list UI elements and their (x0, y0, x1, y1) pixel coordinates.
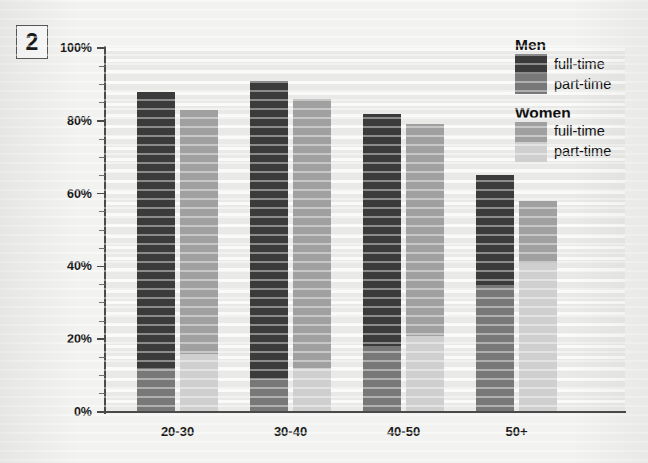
x-axis-line (104, 411, 626, 413)
bar-men-50+ (476, 175, 514, 412)
figure-number: 2 (26, 31, 39, 54)
y-tick-major (97, 338, 105, 340)
bar-men-20-30 (137, 92, 175, 412)
x-axis-tick-label: 40-50 (364, 424, 444, 439)
bar-men-30-40 (250, 81, 288, 412)
legend-item[interactable]: part-time (505, 142, 611, 162)
legend-item-label: part-time (554, 144, 611, 159)
chart-legend: Menfull-timepart-timeWomenfull-timepart-… (505, 36, 611, 162)
figure-number-box: 2 (16, 25, 48, 59)
bar-segment-men-full-time (137, 92, 175, 369)
y-axis-labels: 100%80%60%40%20%0% (30, 0, 92, 463)
y-tick-minor (99, 84, 105, 85)
bar-women-50+ (519, 201, 557, 412)
y-tick-minor (99, 175, 105, 176)
y-tick-minor (99, 157, 105, 158)
y-tick-minor (99, 66, 105, 67)
legend-group-title-men: Men (515, 36, 611, 54)
y-axis-tick-label: 60% (36, 188, 92, 201)
figure-page: 100%80%60%40%20%0% 20-3030-4040-5050+ 2 … (0, 0, 648, 463)
y-tick-minor (99, 393, 105, 394)
y-tick-minor (99, 375, 105, 376)
bar-men-40-50 (363, 114, 401, 412)
bar-segment-men-full-time (250, 81, 288, 379)
y-tick-major (97, 411, 105, 413)
bar-women-30-40 (293, 99, 331, 412)
y-tick-major (97, 120, 105, 122)
x-axis-tick-label: 50+ (477, 424, 557, 439)
bar-segment-men-part-time (137, 368, 175, 412)
bar-segment-women-part-time (180, 354, 218, 412)
y-axis-tick-label: 40% (36, 260, 92, 273)
bar-segment-men-full-time (363, 114, 401, 347)
legend-swatch-icon (515, 122, 547, 142)
bar-segment-women-full-time (519, 201, 557, 263)
bar-segment-men-part-time (476, 285, 514, 412)
y-tick-major (97, 47, 105, 49)
bar-women-40-50 (406, 124, 444, 412)
bar-segment-women-part-time (293, 368, 331, 412)
legend-item[interactable]: full-time (505, 54, 611, 74)
y-axis-tick-label: 80% (36, 115, 92, 128)
y-tick-minor (99, 211, 105, 212)
y-tick-minor (99, 321, 105, 322)
bar-segment-women-part-time (406, 336, 444, 412)
legend-item-label: part-time (554, 77, 611, 92)
legend-rows-women: full-timepart-time (505, 122, 611, 162)
legend-group-title-women: Women (515, 104, 611, 122)
bar-women-20-30 (180, 110, 218, 412)
bar-segment-women-part-time (519, 263, 557, 412)
x-axis-tick-label: 30-40 (251, 424, 331, 439)
y-axis-tick-label: 20% (36, 333, 92, 346)
y-tick-minor (99, 230, 105, 231)
legend-swatch-icon (515, 74, 547, 94)
y-tick-minor (99, 102, 105, 103)
y-tick-minor (99, 248, 105, 249)
legend-item-label: full-time (554, 124, 605, 139)
bar-segment-men-part-time (250, 379, 288, 412)
bar-segment-men-full-time (476, 175, 514, 284)
legend-item[interactable]: part-time (505, 74, 611, 94)
legend-swatch-icon (515, 142, 547, 162)
legend-rows-men: full-timepart-time (505, 54, 611, 94)
y-tick-minor (99, 302, 105, 303)
bar-segment-women-full-time (406, 124, 444, 335)
y-axis-tick-label: 0% (36, 406, 92, 419)
y-tick-major (97, 266, 105, 268)
legend-swatch-icon (515, 54, 547, 74)
y-tick-minor (99, 357, 105, 358)
y-tick-minor (99, 139, 105, 140)
legend-item-label: full-time (554, 57, 605, 72)
y-tick-minor (99, 284, 105, 285)
legend-item[interactable]: full-time (505, 122, 611, 142)
bar-segment-men-part-time (363, 346, 401, 412)
x-axis-tick-label: 20-30 (138, 424, 218, 439)
y-tick-major (97, 193, 105, 195)
bar-segment-women-full-time (180, 110, 218, 354)
bar-segment-women-full-time (293, 99, 331, 368)
